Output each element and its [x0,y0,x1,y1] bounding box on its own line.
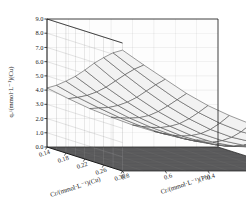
z-tick-label: 2.0 [35,115,43,122]
z-tick-label: 6.0 [35,58,43,65]
x-tick-label: 0.26 [94,166,107,176]
z-tick-label: 8.0 [35,29,43,36]
plot-canvas: 9.08.07.06.05.04.03.02.01.00.00.140.180.… [0,0,246,199]
x-axis-title: Cr/(mmol·L⁻¹)(Cu) [49,175,101,199]
y-tick-label: 0.6 [163,172,173,181]
z-tick-label: 4.0 [35,86,43,93]
z-tick-label: 1.0 [35,129,43,136]
z-tick-label: 5.0 [35,72,43,79]
surface-plot-figure: 9.08.07.06.05.04.03.02.01.00.00.140.180.… [0,0,246,199]
x-tick-label: 0.18 [57,154,70,164]
z-axis-title: qₑ/(mmol·L⁻¹)(Cu) [7,67,15,118]
x-tick-label: 0.22 [76,160,89,170]
z-tick-label: 7.0 [35,44,43,51]
y-tick-label: 0.8 [120,172,130,181]
z-tick-label: 3.0 [35,100,43,107]
z-tick-label: 9.0 [35,15,43,22]
